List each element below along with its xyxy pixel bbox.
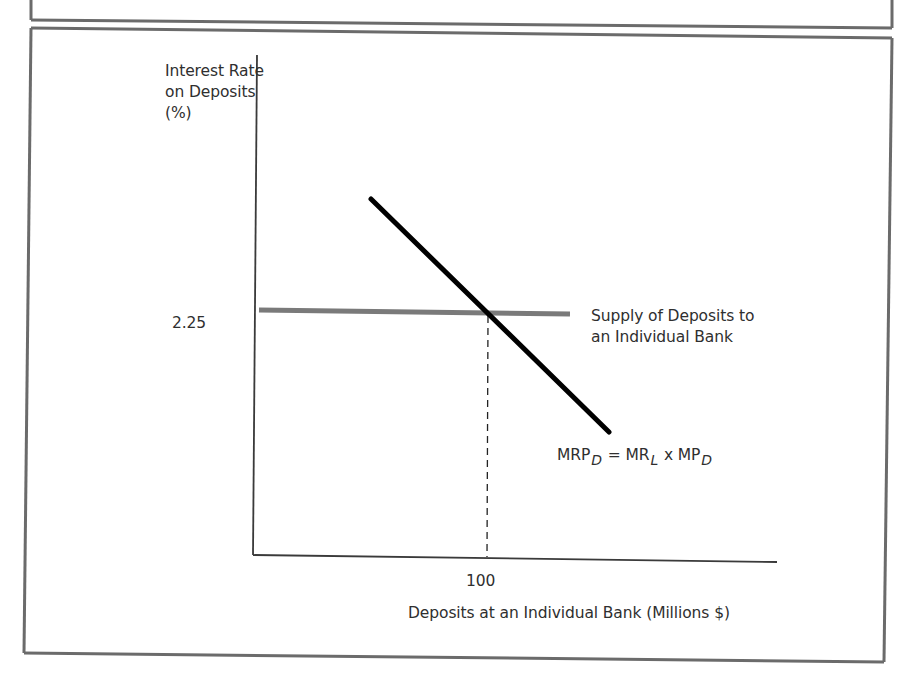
label-sub-d1: D: [591, 452, 602, 468]
supply-curve: [259, 310, 570, 314]
label-sub-d2: D: [701, 452, 712, 468]
figure: Interest Rate on Deposits (%) 2.25 Suppl…: [0, 0, 914, 685]
label-sub-l: L: [650, 452, 658, 468]
equilibrium-dashed-line: [487, 316, 488, 557]
supply-label-line-2: an Individual Bank: [591, 327, 754, 348]
main-panel-frame: [24, 28, 892, 662]
x-axis-label: Deposits at an Individual Bank (Millions…: [408, 603, 730, 624]
y-axis-label-line-1: Interest Rate: [165, 61, 264, 82]
x-tick-label: 100: [466, 571, 495, 592]
y-axis-label-line-2: on Deposits: [165, 82, 264, 103]
supply-label-line-1: Supply of Deposits to: [591, 306, 754, 327]
top-panel-frame: [31, 0, 892, 28]
label-mr: = MR: [603, 446, 650, 464]
mrp-demand-curve: [371, 199, 609, 432]
y-axis: [253, 55, 257, 555]
chart-canvas: [0, 0, 914, 685]
y-axis-label-line-3: (%): [165, 103, 264, 124]
supply-curve-label: Supply of Deposits to an Individual Bank: [591, 306, 754, 348]
label-mp: x MP: [659, 446, 700, 464]
y-axis-label: Interest Rate on Deposits (%): [165, 61, 264, 124]
label-mrp: MRP: [557, 446, 590, 464]
x-axis: [253, 555, 777, 562]
y-tick-label: 2.25: [172, 313, 206, 334]
demand-curve-label: MRPD = MRL x MPD: [557, 445, 713, 466]
